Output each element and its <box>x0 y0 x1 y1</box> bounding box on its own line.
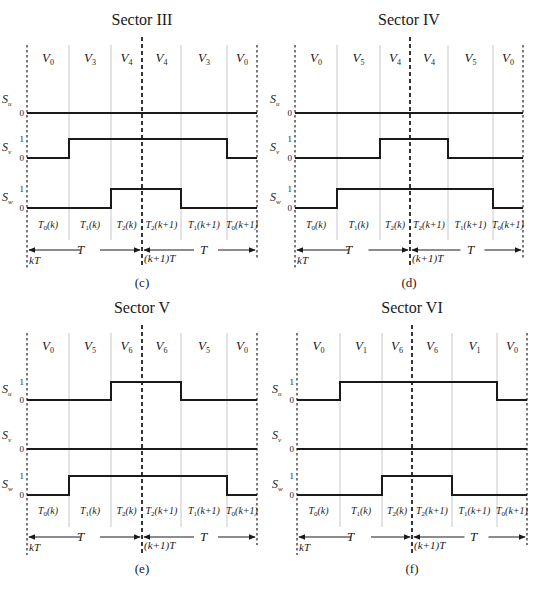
signal-label-v: Sv <box>2 428 12 444</box>
interval-label: T1(k) <box>348 219 369 232</box>
period-label: T <box>347 529 355 544</box>
vector-label: V0 <box>310 50 322 67</box>
interval-label: T1(k) <box>351 505 372 518</box>
time-mark-kT: kT <box>29 541 41 553</box>
level-tick-0: 0 <box>20 490 25 500</box>
interval-label: T2(k) <box>387 505 408 518</box>
period-label: T <box>77 242 85 257</box>
panel-title: Sector V <box>114 299 171 316</box>
vector-label: V1 <box>469 338 481 355</box>
waveform-sw <box>297 476 527 495</box>
level-tick-0: 0 <box>20 444 25 454</box>
interval-label: T0(k+1) <box>226 505 259 518</box>
signal-label-w: Sw <box>272 477 283 493</box>
interval-label: T1(k) <box>80 505 101 518</box>
level-tick-0: 0 <box>288 153 293 163</box>
time-mark-kT: kT <box>297 254 309 266</box>
panel-caption: (e) <box>135 561 149 576</box>
svm-switching-diagram: Sector IIIV0V3V4V4V3V0Su0Sv10Sw10T0(k)T1… <box>0 0 535 590</box>
waveform-sw <box>27 476 257 495</box>
level-tick-1: 1 <box>290 471 295 481</box>
signal-label-u: Su <box>270 92 280 108</box>
interval-label: T2(k+1) <box>146 219 179 232</box>
vector-label: V6 <box>156 338 168 355</box>
level-tick-1: 1 <box>20 134 25 144</box>
time-mark-k1T: (k+1)T <box>412 252 444 265</box>
vector-label: V3 <box>84 50 96 67</box>
interval-label: T1(k) <box>80 219 101 232</box>
time-mark-k1T: (k+1)T <box>144 252 176 265</box>
vector-label: V4 <box>423 50 435 67</box>
interval-label: T2(k) <box>116 505 137 518</box>
interval-label: T0(k+1) <box>492 219 525 232</box>
panel-d: Sector IVV0V5V4V4V5V0Su0Sv10Sw10T0(k)T1(… <box>270 11 525 290</box>
vector-label: V1 <box>355 338 367 355</box>
signal-label-v: Sv <box>272 428 282 444</box>
panel-title: Sector III <box>112 11 173 28</box>
panel-f: Sector VIV0V1V6V6V1V0Su10Sv0Sw10T0(k)T1(… <box>272 299 529 576</box>
level-tick-0: 0 <box>20 395 25 405</box>
level-tick-0: 0 <box>20 108 25 118</box>
signal-label-w: Sw <box>270 190 281 206</box>
level-tick-0: 0 <box>290 395 295 405</box>
level-tick-1: 1 <box>290 377 295 387</box>
vector-label: V5 <box>353 50 365 67</box>
period-label: T <box>200 242 208 257</box>
vector-label: V5 <box>465 50 477 67</box>
vector-label: V6 <box>121 338 133 355</box>
level-tick-0: 0 <box>288 108 293 118</box>
interval-label: T2(k+1) <box>146 505 179 518</box>
level-tick-1: 1 <box>20 184 25 194</box>
interval-label: T0(k) <box>38 219 59 232</box>
vector-label: V0 <box>502 50 514 67</box>
signal-label-u: Su <box>2 92 12 108</box>
interval-label: T0(k) <box>38 505 59 518</box>
time-mark-kT: kT <box>299 541 311 553</box>
level-tick-0: 0 <box>20 203 25 213</box>
interval-label: T2(k+1) <box>416 505 449 518</box>
panel-title: Sector IV <box>378 11 440 28</box>
vector-label: V0 <box>506 338 518 355</box>
interval-label: T0(k) <box>306 219 327 232</box>
level-tick-1: 1 <box>288 184 293 194</box>
time-mark-k1T: (k+1)T <box>414 539 446 552</box>
panel-caption: (f) <box>406 561 419 576</box>
vector-label: V3 <box>198 50 210 67</box>
level-tick-0: 0 <box>290 444 295 454</box>
signal-label-u: Su <box>2 382 12 398</box>
time-mark-kT: kT <box>29 254 41 266</box>
vector-label: V0 <box>313 338 325 355</box>
vector-label: V4 <box>156 50 168 67</box>
vector-label: V0 <box>42 338 54 355</box>
waveform-sv <box>295 139 523 158</box>
interval-label: T1(k+1) <box>188 219 221 232</box>
interval-label: T0(k+1) <box>496 505 529 518</box>
vector-label: V0 <box>236 50 248 67</box>
interval-label: T0(k) <box>308 505 329 518</box>
signal-label-u: Su <box>272 382 282 398</box>
level-tick-0: 0 <box>290 490 295 500</box>
level-tick-1: 1 <box>20 377 25 387</box>
vector-label: V4 <box>121 50 133 67</box>
vector-label: V5 <box>198 338 210 355</box>
level-tick-0: 0 <box>288 203 293 213</box>
period-label: T <box>77 529 85 544</box>
interval-label: T2(k) <box>385 219 406 232</box>
interval-label: T1(k+1) <box>459 505 492 518</box>
signal-label-w: Sw <box>2 477 13 493</box>
interval-label: T2(k+1) <box>413 219 446 232</box>
interval-label: T2(k) <box>116 219 137 232</box>
panel-caption: (c) <box>135 275 149 290</box>
signal-label-v: Sv <box>2 140 12 156</box>
level-tick-1: 1 <box>20 471 25 481</box>
interval-label: T1(k+1) <box>188 505 221 518</box>
vector-label: V0 <box>42 50 54 67</box>
panel-caption: (d) <box>401 275 416 290</box>
panel-title: Sector VI <box>381 299 442 316</box>
vector-label: V0 <box>236 338 248 355</box>
signal-label-w: Sw <box>2 190 13 206</box>
signal-label-v: Sv <box>270 140 280 156</box>
period-label: T <box>470 529 478 544</box>
vector-label: V6 <box>426 338 438 355</box>
vector-label: V6 <box>391 338 403 355</box>
